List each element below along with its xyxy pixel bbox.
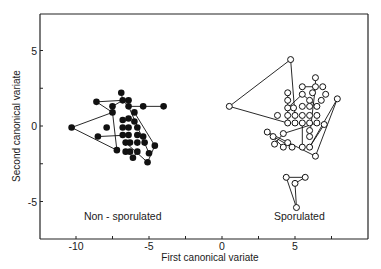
open-marker-sporulated [280,131,286,137]
open-marker-sporulated [285,105,291,111]
filled-marker-non-sporulated [127,148,134,155]
plot-frame [40,14,368,239]
open-marker-sporulated [307,97,313,103]
open-marker-sporulated [307,112,313,118]
connector-line [229,60,290,107]
filled-marker-non-sporulated [141,139,148,146]
filled-marker-non-sporulated [118,89,125,96]
open-marker-sporulated [292,112,298,118]
data-points [68,57,340,211]
connector-line [96,100,122,102]
open-marker-sporulated [321,121,327,127]
filled-marker-non-sporulated [103,124,110,131]
filled-marker-non-sporulated [160,103,167,110]
x-tick-label: -10 [68,240,83,252]
filled-marker-non-sporulated [152,142,159,149]
open-marker-sporulated [334,96,340,102]
open-marker-sporulated [299,144,305,150]
open-marker-sporulated [312,153,318,159]
open-marker-sporulated [299,120,305,126]
open-marker-sporulated [285,90,291,96]
open-marker-sporulated [283,174,289,180]
filled-marker-non-sporulated [127,139,134,146]
filled-marker-non-sporulated [125,124,132,131]
open-marker-sporulated [314,112,320,118]
open-marker-sporulated [292,120,298,126]
open-marker-sporulated [285,112,291,118]
open-marker-sporulated [270,134,276,140]
filled-marker-non-sporulated [146,150,153,157]
filled-marker-non-sporulated [119,132,126,139]
filled-marker-non-sporulated [134,139,141,146]
filled-marker-non-sporulated [125,97,132,104]
x-tick-label: 5 [292,240,298,252]
filled-marker-non-sporulated [134,124,141,131]
filled-marker-non-sporulated [109,103,116,110]
open-marker-sporulated [307,103,313,109]
connector-line [113,112,117,150]
open-marker-sporulated [299,112,305,118]
open-marker-sporulated [289,144,295,150]
y-tick-label: 5 [31,45,37,57]
open-marker-sporulated [320,84,326,90]
open-marker-sporulated [299,84,305,90]
filled-marker-non-sporulated [125,103,132,110]
open-marker-sporulated [318,97,324,103]
y-axis-ticks: 50-5 [28,45,43,208]
open-marker-sporulated [312,84,318,90]
open-marker-sporulated [307,120,313,126]
open-marker-sporulated [292,180,298,186]
y-tick-label: -5 [28,196,37,208]
open-marker-sporulated [272,141,278,147]
label-non-sporulated: Non - sporulated [84,210,162,222]
open-marker-sporulated [312,75,318,81]
open-marker-sporulated [307,144,313,150]
y-tick-label: 0 [31,120,37,132]
filled-marker-non-sporulated [95,133,102,140]
group-annotations: Non - sporulatedSporulated [84,210,325,222]
filled-marker-non-sporulated [125,115,132,122]
filled-marker-non-sporulated [130,154,137,161]
filled-marker-non-sporulated [119,97,126,104]
label-sporulated: Sporulated [274,210,325,222]
open-marker-sporulated [307,134,313,140]
filled-marker-non-sporulated [131,118,138,125]
open-marker-sporulated [264,129,270,135]
filled-marker-non-sporulated [125,132,132,139]
open-marker-sporulated [274,112,280,118]
open-marker-sporulated [314,103,320,109]
x-tick-label: -5 [144,240,153,252]
open-marker-sporulated [310,90,316,96]
open-marker-sporulated [299,91,305,97]
filled-marker-non-sporulated [134,148,141,155]
open-marker-sporulated [285,97,291,103]
x-axis-title: First canonical variate [161,252,259,263]
filled-marker-non-sporulated [131,109,138,116]
open-marker-sporulated [285,120,291,126]
y-axis-title: Second canonical variate [11,70,22,182]
open-marker-sporulated [314,120,320,126]
open-marker-sporulated [307,128,313,134]
filled-marker-non-sporulated [93,99,100,106]
open-marker-sporulated [302,174,308,180]
filled-marker-non-sporulated [119,124,126,131]
filled-marker-non-sporulated [109,109,116,116]
filled-marker-non-sporulated [140,133,147,140]
open-marker-sporulated [299,103,305,109]
x-tick-label: 0 [219,240,225,252]
open-marker-sporulated [291,105,297,111]
scatter-chart: -10-505 50-5 Non - sporulatedSporulated … [0,0,381,269]
filled-marker-non-sporulated [119,117,126,124]
open-marker-sporulated [226,103,232,109]
open-marker-sporulated [288,57,294,63]
connector-line [72,128,117,151]
filled-marker-non-sporulated [140,103,147,110]
filled-marker-non-sporulated [114,147,121,154]
filled-marker-non-sporulated [134,132,141,139]
filled-marker-non-sporulated [144,159,151,166]
open-marker-sporulated [323,91,329,97]
filled-marker-non-sporulated [68,124,75,131]
